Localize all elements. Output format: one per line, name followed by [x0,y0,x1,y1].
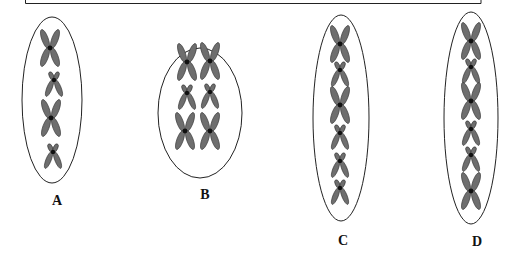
chromosome-small [330,179,351,205]
chromosome-large [460,22,483,61]
chromosome-large [40,99,63,138]
chromosome-large [199,42,222,81]
cell-a: A [22,17,82,208]
chromosome-large [199,112,222,151]
chromosome-small [43,143,64,169]
label-c: C [338,233,348,248]
chromosome-small [461,146,482,172]
cell-d: D [444,12,498,249]
chromosome-small [330,152,351,178]
chromosome-large [329,86,352,125]
chromosome-small [177,84,198,110]
chromosome-large [176,43,199,82]
label-b: B [200,187,209,202]
label-a: A [52,193,63,208]
chromosome-small [330,124,351,150]
chromosome-small [330,61,351,87]
chromosome-small [200,83,221,109]
chromosome-large [39,29,62,68]
chromosome-large [460,172,483,211]
chromosome-small [461,58,482,84]
cell-b: B [158,42,242,202]
chromosome-large [460,82,483,121]
top-box-edge [26,0,482,4]
label-d: D [472,234,482,249]
chromosome-large [329,25,352,64]
cell-c: C [313,15,369,248]
cell-diagram: A B C D [0,0,517,260]
chromosome-small [44,71,65,97]
chromosome-large [174,112,197,151]
chromosome-small [461,120,482,146]
